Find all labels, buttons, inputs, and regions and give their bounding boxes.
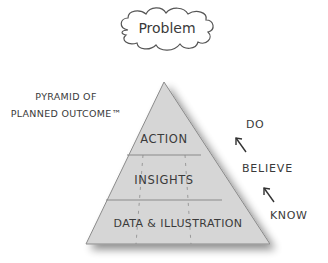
step-believe: BELIEVE xyxy=(242,162,293,175)
problem-cloud: Problem xyxy=(121,8,213,50)
title-line-1: PYRAMID OF xyxy=(35,91,96,102)
arrow-up-left-icon xyxy=(236,138,246,152)
problem-label: Problem xyxy=(138,20,195,36)
pyramid-diagram: Problem PYRAMID OF PLANNED OUTCOME™ ACTI… xyxy=(0,0,328,263)
level-data-illustration: DATA & ILLUSTRATION xyxy=(114,217,243,230)
level-action: ACTION xyxy=(140,132,187,146)
level-insights: INSIGHTS xyxy=(134,173,193,187)
title-line-2: PLANNED OUTCOME™ xyxy=(11,108,122,119)
step-do: DO xyxy=(246,118,264,131)
arrow-up-left-icon xyxy=(264,188,274,202)
step-know: KNOW xyxy=(270,209,307,222)
progression: DO BELIEVE KNOW xyxy=(236,118,307,222)
